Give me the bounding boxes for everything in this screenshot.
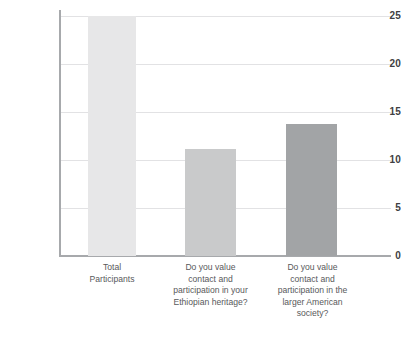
bar: [286, 124, 337, 256]
x-axis-category-label: TotalParticipants: [72, 262, 152, 285]
bars-container: [0, 0, 401, 256]
bar: [185, 149, 236, 256]
category-label-line: Ethiopian heritage?: [163, 297, 258, 309]
category-label-line: Do you value: [266, 262, 359, 274]
x-axis-category-label: Do you valuecontact andparticipation in …: [266, 262, 359, 320]
category-label-line: society?: [266, 308, 359, 320]
category-label-line: contact and: [163, 274, 258, 286]
category-label-line: Participants: [72, 274, 152, 286]
bar-chart: 0510152025 TotalParticipantsDo you value…: [0, 0, 401, 340]
category-label-line: larger American: [266, 297, 359, 309]
bar: [88, 16, 136, 256]
category-label-line: participation in the: [266, 285, 359, 297]
category-label-line: Do you value: [163, 262, 258, 274]
category-label-line: participation in your: [163, 285, 258, 297]
category-label-line: Total: [72, 262, 152, 274]
category-label-line: contact and: [266, 274, 359, 286]
x-axis-category-label: Do you valuecontact andparticipation in …: [163, 262, 258, 308]
